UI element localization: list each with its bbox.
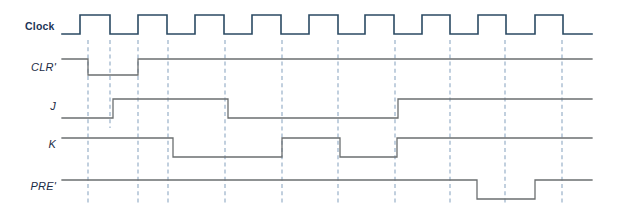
signal-label-clr: CLR'	[31, 61, 57, 73]
signal-label-pre: PRE'	[30, 180, 56, 192]
timing-diagram: Clock CLR' J K PRE'	[0, 0, 619, 208]
signal-label-k: K	[48, 138, 56, 150]
signal-label-j: J	[49, 100, 56, 112]
signal-label-clock: Clock	[25, 20, 55, 32]
